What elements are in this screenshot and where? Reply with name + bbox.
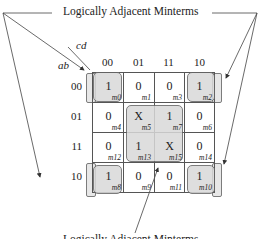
column-header: 10 <box>184 56 215 68</box>
cell-value: 1 <box>93 169 124 184</box>
cell-m6: 0 m6 <box>184 103 215 133</box>
cell-value: 0 <box>154 79 185 94</box>
minterm-label: m2 <box>203 93 212 102</box>
cell-value: 0 <box>93 109 124 124</box>
cell-m13: 1 m13 <box>123 133 154 163</box>
minterm-label: m1 <box>142 93 151 102</box>
minterm-label: m4 <box>112 123 121 132</box>
cell-value: 0 <box>184 109 215 124</box>
column-header: 01 <box>123 56 154 68</box>
cell-m4: 0 m4 <box>93 103 124 133</box>
minterm-label: m14 <box>199 153 212 162</box>
cell-m12: 0 m12 <box>93 133 124 163</box>
cell-m8: 1 m8 <box>93 163 124 193</box>
minterm-label: m13 <box>138 153 151 162</box>
cell-value: 1 <box>154 109 185 124</box>
cell-m10: 1 m10 <box>184 163 215 193</box>
cell-m14: 0 m14 <box>184 133 215 163</box>
cell-m2: 1 m2 <box>184 73 215 103</box>
row-variable-label: ab <box>58 59 69 71</box>
cell-m11: 0 m11 <box>154 163 185 193</box>
cell-value: 1 <box>123 139 154 154</box>
minterm-label: m11 <box>170 183 182 192</box>
minterm-label: m0 <box>112 93 121 102</box>
cell-value: 0 <box>123 169 154 184</box>
column-variable-label: cd <box>76 39 86 51</box>
column-header: 00 <box>92 56 123 68</box>
minterm-label: m15 <box>169 153 182 162</box>
cell-value: 0 <box>184 139 215 154</box>
bottom-label: Logically Adjacent Minterms <box>60 233 201 239</box>
karnaugh-map-grid: 1 m0 0 m1 0 m3 1 m2 0 m4 X m5 1 m7 0 m6 … <box>92 72 215 193</box>
cell-value: 1 <box>93 79 124 94</box>
cell-value: 0 <box>154 169 185 184</box>
top-label: Logically Adjacent Minterms <box>60 5 201 17</box>
cell-m5: X m5 <box>123 103 154 133</box>
minterm-label: m7 <box>173 123 182 132</box>
cell-m1: 0 m1 <box>123 73 154 103</box>
row-header: 10 <box>52 170 82 182</box>
cell-value: 1 <box>184 169 215 184</box>
cell-m7: 1 m7 <box>154 103 185 133</box>
cell-m3: 0 m3 <box>154 73 185 103</box>
column-header: 11 <box>153 56 184 68</box>
minterm-label: m5 <box>142 123 151 132</box>
cell-value: 0 <box>93 139 124 154</box>
minterm-label: m8 <box>112 183 121 192</box>
cell-m15: X m15 <box>154 133 185 163</box>
row-header: 01 <box>52 110 82 122</box>
row-header: 11 <box>52 140 82 152</box>
row-header: 00 <box>52 80 82 92</box>
minterm-label: m6 <box>203 123 212 132</box>
minterm-label: m3 <box>173 93 182 102</box>
minterm-label: m12 <box>108 153 121 162</box>
cell-m9: 0 m9 <box>123 163 154 193</box>
minterm-label: m9 <box>142 183 151 192</box>
cell-value: X <box>154 139 185 154</box>
cell-value: 0 <box>123 79 154 94</box>
cell-m0: 1 m0 <box>93 73 124 103</box>
minterm-label: m10 <box>199 183 212 192</box>
cell-value: X <box>123 109 154 124</box>
cell-value: 1 <box>184 79 215 94</box>
